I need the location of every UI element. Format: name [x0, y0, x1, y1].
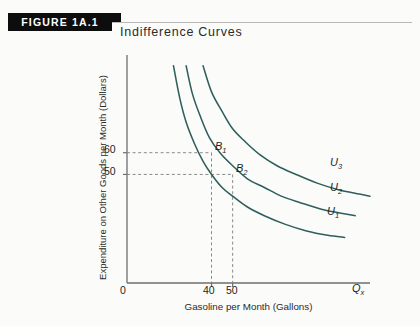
- point-label-b1-subscript: 1: [222, 146, 226, 155]
- y-axis-title: Expenditure on Other Goods per Month (Do…: [97, 53, 108, 303]
- y-tick-label-60: 60: [104, 143, 116, 155]
- curve-label-u3-subscript: 3: [338, 162, 342, 171]
- axis-ticks-group: [123, 153, 233, 287]
- curve-label-u1: U1: [327, 205, 339, 220]
- point-label-b2: B2: [236, 162, 248, 177]
- curve-label-u2-subscript: 2: [338, 187, 342, 196]
- x-tick-label-50: 50: [226, 284, 238, 296]
- curve-u1: [173, 66, 344, 238]
- curve-label-u3-base: U: [330, 156, 338, 168]
- chart-svg: [0, 0, 420, 326]
- x-axis-variable-base: Q: [352, 282, 361, 294]
- curve-label-u1-subscript: 1: [335, 211, 339, 220]
- x-axis-variable-subscript: x: [361, 288, 365, 297]
- curve-label-u1-base: U: [327, 205, 335, 217]
- curve-u3: [203, 66, 370, 196]
- chart-plot-area: Expenditure on Other Goods per Month (Do…: [0, 0, 420, 326]
- x-axis-title: Gasoline per Month (Gallons): [127, 301, 370, 312]
- curve-label-u2-base: U: [330, 181, 338, 193]
- indifference-curves-group: [173, 66, 370, 238]
- curve-label-u3: U3: [330, 156, 342, 171]
- point-label-b2-subscript: 2: [243, 168, 247, 177]
- curve-label-u2: U2: [330, 181, 342, 196]
- guide-lines-group: [127, 153, 233, 283]
- point-label-b1: B1: [215, 140, 227, 155]
- x-axis-variable-label: Qx: [352, 282, 364, 297]
- y-tick-label-50: 50: [104, 165, 116, 177]
- x-tick-label-40: 40: [203, 284, 215, 296]
- origin-label: 0: [120, 284, 126, 296]
- figure-container: FIGURE 1A.1 Indifference Curves Expendit…: [0, 0, 420, 326]
